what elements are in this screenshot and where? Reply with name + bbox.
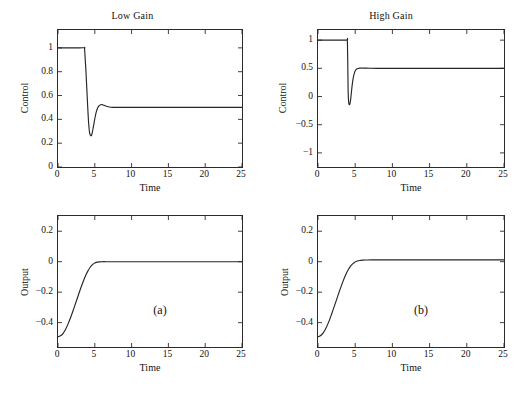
y-tick-label: 0 — [281, 256, 313, 266]
y-axis-label-high-gain-output: Output — [279, 268, 290, 296]
x-tick-label: 15 — [163, 349, 173, 359]
y-tick-label: −0.5 — [281, 119, 313, 129]
x-tick-label: 0 — [55, 169, 60, 179]
y-tick-label: 0.2 — [21, 137, 53, 147]
y-tick-label: 0 — [21, 161, 53, 171]
y-tick-label: 1 — [21, 42, 53, 52]
y-axis-label-low-gain-control: Control — [19, 83, 30, 114]
x-axis-label-high-gain-control: Time — [401, 182, 422, 193]
panel-title-low-gain: Low Gain — [0, 10, 265, 21]
y-tick-label: 0.2 — [21, 225, 53, 235]
figure-canvas: Low Gain 00.20.40.60.81 0510152025 Time … — [0, 0, 529, 397]
x-tick-label: 5 — [352, 169, 357, 179]
y-tick-label: 1 — [281, 34, 313, 44]
x-tick-label: 15 — [424, 169, 434, 179]
x-tick-label: 0 — [315, 169, 320, 179]
x-tick-label: 10 — [387, 169, 397, 179]
y-tick-label: 0.5 — [281, 62, 313, 72]
y-tick-label: −1 — [281, 147, 313, 157]
x-axis-label-high-gain-output: Time — [401, 362, 422, 373]
panel-tag-b: (b) — [414, 303, 428, 318]
curve-low-gain-control — [58, 30, 244, 169]
y-tick-label: 0.2 — [281, 225, 313, 235]
curve-high-gain-control — [318, 30, 506, 169]
x-tick-label: 25 — [236, 169, 246, 179]
x-tick-label: 20 — [461, 169, 471, 179]
panel-low-gain-output: −0.4−0.200.2 0510152025 Time Output (a) — [0, 200, 265, 397]
panel-title-high-gain: High Gain — [253, 10, 529, 21]
y-tick-label: 0.8 — [21, 66, 53, 76]
x-tick-label: 25 — [498, 169, 508, 179]
curve-low-gain-output — [58, 216, 244, 349]
x-tick-label: 10 — [126, 169, 136, 179]
y-tick-label: 0 — [21, 256, 53, 266]
x-axis-label-low-gain-control: Time — [140, 182, 161, 193]
curve-high-gain-output — [318, 216, 506, 349]
x-tick-label: 20 — [199, 349, 209, 359]
x-tick-label: 15 — [163, 169, 173, 179]
y-axis-label-high-gain-control: Control — [277, 83, 288, 114]
y-tick-label: −0.4 — [281, 317, 313, 327]
x-tick-label: 10 — [387, 349, 397, 359]
x-tick-label: 0 — [315, 349, 320, 359]
plot-area-low-gain-output — [57, 215, 243, 348]
x-tick-label: 15 — [424, 349, 434, 359]
panel-high-gain-output: −0.4−0.200.2 0510152025 Time Output (b) — [265, 200, 529, 397]
x-tick-label: 5 — [91, 349, 96, 359]
x-tick-label: 5 — [91, 169, 96, 179]
x-tick-label: 20 — [199, 169, 209, 179]
panel-low-gain-control: Low Gain 00.20.40.60.81 0510152025 Time … — [0, 0, 265, 200]
x-tick-label: 5 — [352, 349, 357, 359]
x-tick-label: 0 — [55, 349, 60, 359]
plot-area-high-gain-control — [317, 29, 505, 168]
x-tick-label: 20 — [461, 349, 471, 359]
x-tick-label: 10 — [126, 349, 136, 359]
x-tick-label: 25 — [498, 349, 508, 359]
panel-tag-a: (a) — [153, 303, 166, 318]
y-axis-label-low-gain-output: Output — [19, 268, 30, 296]
y-tick-label: −0.4 — [21, 317, 53, 327]
y-tick-label: 0.4 — [21, 113, 53, 123]
x-tick-label: 25 — [236, 349, 246, 359]
x-axis-label-low-gain-output: Time — [140, 362, 161, 373]
plot-area-low-gain-control — [57, 29, 243, 168]
panel-high-gain-control: High Gain −1−0.500.51 0510152025 Time Co… — [265, 0, 529, 200]
plot-area-high-gain-output — [317, 215, 505, 348]
